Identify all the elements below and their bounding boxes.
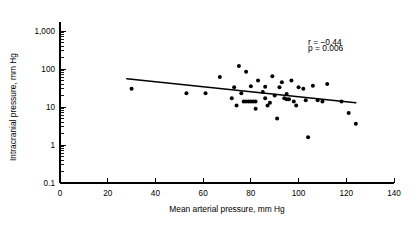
data-point <box>297 85 301 89</box>
y-tick-label: 1 <box>50 141 55 150</box>
regression-line <box>127 79 356 103</box>
data-point <box>184 91 188 95</box>
data-point <box>263 85 267 89</box>
data-point <box>292 99 296 103</box>
data-points-group <box>130 64 358 139</box>
scatter-chart-figure: 0.11101001,000 020406080100120140 r = −0… <box>0 0 412 227</box>
data-point <box>347 111 351 115</box>
x-tick-label: 0 <box>58 189 63 198</box>
x-tick-label: 80 <box>246 189 256 198</box>
data-point <box>249 84 253 88</box>
data-point <box>325 82 329 86</box>
data-point <box>354 122 358 126</box>
annotation-text: p = 0.006 <box>308 43 344 53</box>
x-tick-label: 60 <box>199 189 209 198</box>
data-point <box>301 87 305 91</box>
x-axis-ticks <box>60 178 394 183</box>
data-point <box>254 107 258 111</box>
data-point <box>218 75 222 79</box>
data-point <box>239 91 243 95</box>
x-tick-label: 40 <box>151 189 161 198</box>
data-point <box>263 96 267 100</box>
data-point <box>232 85 236 89</box>
y-tick-label: 100 <box>41 65 55 74</box>
data-point <box>130 87 134 91</box>
x-tick-label: 140 <box>387 189 401 198</box>
data-point <box>277 85 281 89</box>
data-point <box>256 78 260 82</box>
data-point <box>230 96 234 100</box>
x-axis-title: Mean arterial pressure, mm Hg <box>169 204 285 214</box>
data-point <box>244 70 248 74</box>
data-point <box>289 78 293 82</box>
x-axis-tick-labels: 020406080100120140 <box>58 189 402 198</box>
data-point <box>294 103 298 107</box>
x-tick-label: 20 <box>103 189 113 198</box>
data-point <box>275 116 279 120</box>
data-point <box>204 91 208 95</box>
data-point <box>306 135 310 139</box>
data-point <box>235 103 239 107</box>
data-point <box>311 84 315 88</box>
x-tick-label: 120 <box>339 189 353 198</box>
stats-annotation: r = −0.44p = 0.006 <box>308 37 344 53</box>
y-tick-label: 10 <box>46 103 56 112</box>
y-tick-label: 1,000 <box>35 27 56 36</box>
x-tick-label: 100 <box>292 189 306 198</box>
data-point <box>268 101 272 105</box>
data-point <box>280 80 284 84</box>
data-point <box>237 64 241 68</box>
data-point <box>287 97 291 101</box>
data-point <box>304 98 308 102</box>
data-point <box>254 99 258 103</box>
data-point <box>270 74 274 78</box>
y-axis-title: Intracranial pressure, mm Hg <box>8 53 18 161</box>
chart-canvas: 0.11101001,000 020406080100120140 r = −0… <box>0 0 412 227</box>
y-tick-label: 0.1 <box>44 179 56 188</box>
y-axis-tick-labels: 0.11101001,000 <box>35 27 56 188</box>
